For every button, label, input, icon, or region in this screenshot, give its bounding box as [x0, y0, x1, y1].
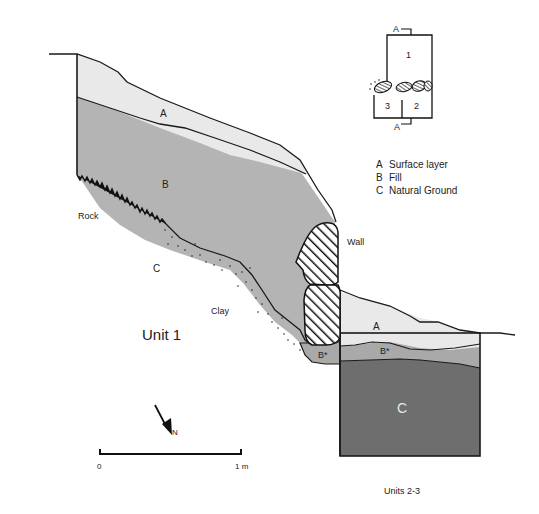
key-plan-room-2: 2	[414, 101, 419, 111]
diagram-title-unit1: Unit 1	[142, 326, 181, 343]
scale-bar: 0 1 m	[97, 449, 249, 471]
section-diagram: A B Rock C Clay Unit 1 Wall B* A B* C Un…	[0, 0, 539, 514]
label-clay: Clay	[211, 306, 230, 316]
key-plan-section-top: A	[393, 24, 399, 34]
diagram-subtitle-units23: Units 2-3	[384, 486, 420, 496]
legend-label-c: Natural Ground	[389, 185, 457, 196]
label-layer-a-units23: A	[373, 321, 380, 332]
north-arrow: N	[155, 405, 178, 437]
wall-stone-lower	[304, 285, 340, 345]
legend-label-b: Fill	[389, 172, 402, 183]
label-layer-c-unit1: C	[153, 263, 160, 274]
legend-key-c: C	[376, 185, 383, 196]
label-layer-b-unit1: B	[162, 179, 169, 190]
north-label: N	[172, 428, 178, 437]
key-plan-section-bottom: A	[394, 122, 400, 132]
key-plan-room-1: 1	[406, 50, 411, 60]
layer-a-units23	[340, 292, 480, 350]
label-layer-c-units23: C	[397, 400, 407, 416]
label-layer-a-unit1: A	[160, 108, 167, 119]
scale-end: 1 m	[235, 462, 249, 471]
scale-start: 0	[97, 462, 102, 471]
key-plan: A A 1 2 3	[369, 24, 432, 132]
legend-key-b: B	[376, 172, 383, 183]
legend: A Surface layer B Fill C Natural Ground	[376, 159, 457, 196]
legend-label-a: Surface layer	[389, 159, 449, 170]
legend-key-a: A	[376, 159, 383, 170]
label-rock: Rock	[78, 211, 99, 221]
layer-c-units23	[340, 359, 480, 456]
label-wall: Wall	[347, 237, 364, 247]
key-plan-room-3: 3	[385, 101, 390, 111]
label-b-star-units23: B*	[380, 346, 390, 356]
label-b-star-left: B*	[318, 350, 328, 360]
